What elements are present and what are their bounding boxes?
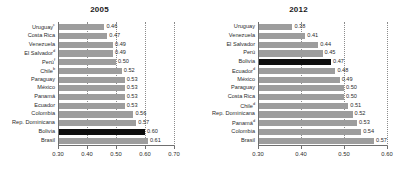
bar-value-label: 0.52: [124, 68, 135, 74]
tick-mark: [58, 146, 59, 149]
bar-value-label: 0.60: [147, 129, 158, 135]
bar: [258, 129, 361, 135]
bar: [58, 94, 125, 100]
category-label: El Salvadord: [24, 50, 55, 56]
bar-row: Costa Rica0.50: [258, 94, 387, 100]
tick-mark: [145, 146, 146, 149]
category-label: Brasil: [241, 138, 255, 144]
category-label: Brasil: [41, 138, 55, 144]
plot-area-2005: Uruguayc0.46Costa Rica0.47Venezuela0.49E…: [58, 22, 174, 146]
bar-row: Ecuador0.53: [58, 103, 174, 109]
bar: [258, 138, 374, 144]
category-label: Venezuela: [229, 33, 255, 39]
category-label: Costa Rica: [228, 94, 255, 100]
bar-row: México0.53: [58, 85, 174, 91]
footnote-marker: b: [53, 67, 55, 71]
bar-value-label: 0.49: [115, 42, 126, 48]
panel-title-2012: 2012: [199, 5, 398, 14]
bar-value-label: 0.53: [127, 94, 138, 100]
bar-row: Costa Rica0.47: [58, 33, 174, 39]
gridline: [174, 22, 175, 146]
bar: [58, 103, 125, 109]
tick-mark: [387, 146, 388, 149]
bar-value-label: 0.61: [150, 138, 161, 144]
x-tick-label: 0.50: [338, 151, 349, 157]
bar: [58, 59, 116, 65]
x-tick-label: 0.60: [381, 151, 392, 157]
chart-figure: 2005 Uruguayc0.46Costa Rica0.47Venezuela…: [0, 0, 398, 178]
bar: [258, 120, 357, 126]
bar-row: El Salvador0.44: [258, 42, 387, 48]
bar: [258, 111, 353, 117]
category-label: Rep. Dominicana: [12, 120, 55, 126]
bar: [58, 50, 113, 56]
x-tick-label: 0.70: [168, 151, 179, 157]
bar-row: Panamá0.53: [58, 94, 174, 100]
bar-row: Brasil0.57: [258, 138, 387, 144]
bar: [258, 59, 331, 65]
bar: [258, 103, 348, 109]
bar-row: Venezuela0.41: [258, 33, 387, 39]
chart-panel-2012: 2012 Uruguay0.38Venezuela0.41El Salvador…: [199, 0, 398, 178]
bar-value-label: 0.48: [337, 68, 348, 74]
bar-value-label: 0.49: [115, 51, 126, 57]
bars-2012: Uruguay0.38Venezuela0.41El Salvador0.44P…: [258, 22, 387, 146]
x-axis-line-2012: [258, 145, 387, 146]
bar: [58, 120, 136, 126]
bar: [58, 68, 122, 74]
bar: [58, 77, 125, 83]
category-label: Costa Rica: [28, 33, 55, 39]
tick-mark: [258, 146, 259, 149]
footnote-marker: d: [253, 102, 255, 106]
bar: [258, 42, 318, 48]
bar: [258, 85, 344, 91]
bar: [58, 42, 113, 48]
bar-value-label: 0.45: [325, 51, 336, 57]
bar-value-label: 0.50: [118, 59, 129, 65]
bar-value-label: 0.52: [355, 112, 366, 118]
category-label: Uruguayc: [32, 24, 55, 30]
x-tick-label: 0.30: [52, 151, 63, 157]
bar-row: Paraguay0.50: [258, 85, 387, 91]
footnote-marker: d: [253, 119, 255, 123]
bar-value-label: 0.49: [342, 77, 353, 83]
bar-value-label: 0.47: [333, 59, 344, 65]
category-label: Paraguay: [31, 77, 55, 83]
bar-row: Panamád0.53: [258, 120, 387, 126]
tick-mark: [116, 146, 117, 149]
bar-row: Rep. Dominicana0.52: [258, 111, 387, 117]
bar-row: El Salvadord0.49: [58, 50, 174, 56]
panel-title-2005: 2005: [0, 5, 199, 14]
bar: [58, 24, 104, 30]
bar: [258, 50, 323, 56]
category-label: Bolivia: [239, 59, 255, 65]
bar-row: Colombia0.56: [58, 111, 174, 117]
bar: [258, 24, 292, 30]
bar-row: Paraguay0.53: [58, 77, 174, 83]
bar-value-label: 0.57: [376, 138, 387, 144]
bar: [58, 33, 107, 39]
bar-row: Bolivia0.60: [58, 129, 174, 135]
y-axis-line-2005: [58, 22, 59, 146]
bar-value-label: 0.53: [127, 103, 138, 109]
bar: [258, 94, 344, 100]
bar: [58, 85, 125, 91]
x-tick-label: 0.40: [295, 151, 306, 157]
bar: [258, 68, 335, 74]
x-tick-label: 0.30: [252, 151, 263, 157]
footnote-marker: c: [53, 23, 55, 27]
category-label: Perúf: [42, 59, 55, 65]
bar-row: Uruguayc0.46: [58, 24, 174, 30]
bar-row: Perú0.45: [258, 50, 387, 56]
footnote-marker: f: [54, 58, 55, 62]
bar-row: Perúf0.50: [58, 59, 174, 65]
bar: [58, 138, 148, 144]
bars-2005: Uruguayc0.46Costa Rica0.47Venezuela0.49E…: [58, 22, 174, 146]
y-axis-line-2012: [258, 22, 259, 146]
category-label: Rep. Dominicana: [212, 112, 255, 118]
bar-row: Brasil0.61: [58, 138, 174, 144]
category-label: Colombia: [31, 112, 55, 118]
tick-mark: [301, 146, 302, 149]
category-label: Perú: [243, 51, 255, 57]
bar-row: Chileb0.52: [58, 68, 174, 74]
